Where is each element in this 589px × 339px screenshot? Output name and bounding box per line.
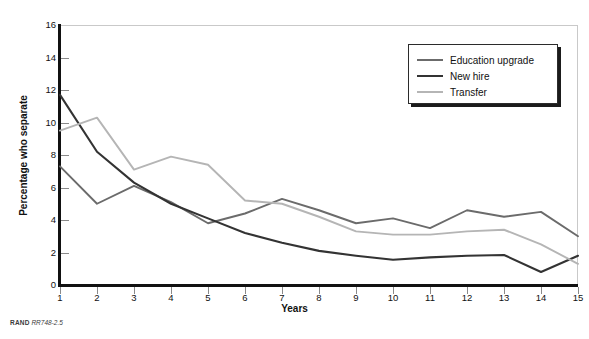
legend-label: New hire <box>450 71 489 82</box>
legend-swatch-icon <box>417 91 443 93</box>
legend-swatch-icon <box>417 59 443 61</box>
series-line-transfer <box>60 118 578 264</box>
source-note: RAND RR748-2.5 <box>10 319 63 326</box>
legend-label: Education upgrade <box>450 55 534 66</box>
legend-entry-education-upgrade: Education upgrade <box>417 52 557 68</box>
series-line-education-upgrade <box>60 166 578 236</box>
legend-swatch-icon <box>417 75 443 77</box>
source-prefix: RAND <box>10 319 30 326</box>
figure-container: 0246810121416 123456789101112131415 Perc… <box>0 0 589 339</box>
legend-label: Transfer <box>450 87 487 98</box>
source-code: RR748-2.5 <box>31 319 62 326</box>
legend-entry-new-hire: New hire <box>417 68 557 84</box>
legend-box: Education upgradeNew hireTransfer <box>408 44 558 104</box>
series-line-new-hire <box>60 95 578 272</box>
legend-entry-transfer: Transfer <box>417 84 557 100</box>
